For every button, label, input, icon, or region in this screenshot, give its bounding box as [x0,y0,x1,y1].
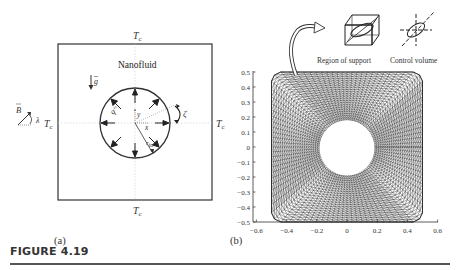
region-of-support-icon [345,15,379,45]
x-tick-label: 0 [345,227,349,235]
x-axis-label: x [144,123,149,132]
x-tick-label: −0.4 [280,227,293,235]
x-tick-label: −0.2 [310,227,323,235]
x-tick-label: 0.6 [433,227,442,235]
magnetic-field-icon: B λ [16,104,40,125]
panel-b-label: (b) [230,235,243,247]
y-tick-label: 0 [247,144,251,152]
panel-b: 0.50.40.30.20.10−0.1−0.2−0.3−0.4−0.5 −0.… [230,12,442,247]
y-tick-label: −0.1 [237,159,250,167]
svg-text:λ: λ [35,116,40,125]
svg-text:B: B [16,105,21,115]
svg-text:g: g [94,77,98,86]
panel-a: Tc Tc Tc Tc Nanofluid g B λ [16,30,225,247]
temp-bottom-label: Tc [133,205,142,218]
curved-arrow-icon [291,22,325,75]
caption-rule [10,263,450,265]
temp-top-label: Tc [133,30,142,43]
y-tick-label: 0.4 [241,84,250,92]
gravity-arrow-icon: g [89,75,99,90]
inset-right-label: Control volume [390,56,438,65]
temp-left-label: Tc [44,118,53,131]
x-tick-label: 0.2 [373,227,382,235]
figure-caption: FIGURE 4.19 [10,245,89,258]
y-axis-label: y [136,110,141,119]
x-tick-label: 0.4 [403,227,412,235]
y-tick-label: −0.3 [237,189,250,197]
x-tick-label: −0.6 [250,227,263,235]
y-tick-label: 0.5 [241,69,250,77]
y-tick-label: 0.2 [241,114,250,122]
y-tick-label: −0.2 [237,174,250,182]
control-volume-icon [400,12,434,46]
svg-text:ζ: ζ [183,109,188,119]
y-tick-label: 0.3 [241,99,250,107]
rotation-arrow-icon: ζ [174,104,188,124]
nanofluid-label: Nanofluid [118,60,157,70]
inset-left-label: Region of support [317,56,372,65]
mesh-inner-hole [320,121,375,176]
y-tick-label: −0.4 [237,204,250,212]
y-tick-label: 0.1 [241,129,250,137]
temp-right-label: Tc [216,118,225,131]
y-tick-label: −0.5 [237,219,250,227]
